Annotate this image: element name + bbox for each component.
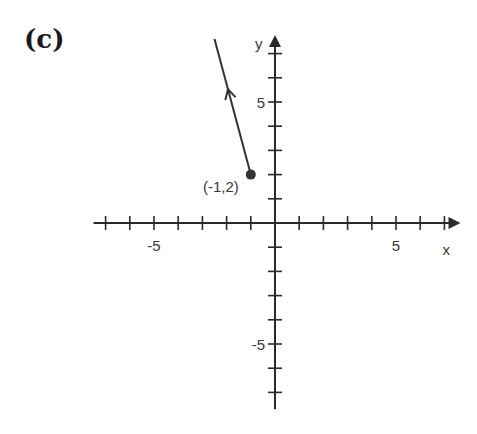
x-tick-label: 5 — [392, 237, 400, 254]
y-tick-label: 5 — [257, 94, 265, 111]
y-axis-arrow-icon — [269, 35, 281, 47]
endpoint-dot — [246, 170, 256, 180]
x-axis-label: x — [443, 241, 451, 258]
x-tick-label: -5 — [147, 237, 160, 254]
y-tick-label: -5 — [252, 336, 265, 353]
point-annotation: (-1,2) — [203, 178, 239, 195]
x-axis-arrow-icon — [449, 217, 461, 229]
y-axis-label: y — [255, 35, 263, 52]
ray-line — [215, 39, 251, 175]
coordinate-plane: -555-5xy(-1,2) — [0, 0, 477, 434]
